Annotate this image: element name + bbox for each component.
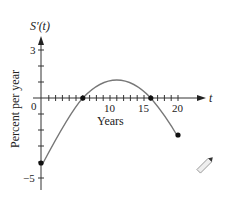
point-root-2 <box>148 95 153 100</box>
chart: S′(t) 3 −5 0 10 15 20 t Years Percent pe… <box>0 0 228 198</box>
x-tick-label-15: 15 <box>138 102 150 114</box>
point-root-1 <box>80 95 85 100</box>
x-axis-variable: t <box>209 91 213 105</box>
x-tick-label-10: 10 <box>104 102 116 114</box>
pencil-icon[interactable] <box>197 155 215 173</box>
y-tick-label-neg5: −5 <box>23 172 35 184</box>
point-end <box>175 132 180 137</box>
x-axis-arrow-icon <box>197 95 206 101</box>
origin-label: 0 <box>31 100 37 112</box>
y-axis-arrow-icon <box>38 36 44 45</box>
point-start <box>38 160 43 165</box>
y-tick-label-3: 3 <box>30 44 36 56</box>
function-title: S′(t) <box>30 19 50 33</box>
y-axis-title: Percent per year <box>8 70 22 148</box>
x-axis-title: Years <box>97 114 124 128</box>
x-tick-label-20: 20 <box>172 102 184 114</box>
